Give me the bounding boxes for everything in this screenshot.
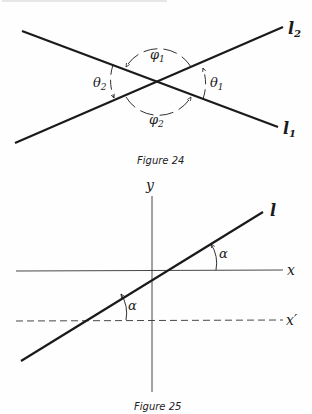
x-prime-label: x′ xyxy=(286,312,298,328)
line-l xyxy=(21,212,263,361)
x-axis xyxy=(16,270,283,271)
figures-canvas: φ1 φ2 θ1 θ2 l2 l1 Figure 24 y x x′ l α xyxy=(0,0,312,414)
label-phi2: φ2 xyxy=(149,112,164,129)
figure-25: y x x′ l α α Figure 25 xyxy=(16,177,298,412)
angle-arc-alpha-upper xyxy=(211,244,217,270)
angle-arc-theta2 xyxy=(111,65,114,98)
label-alpha-upper: α xyxy=(219,246,228,261)
figure-25-caption: Figure 25 xyxy=(134,401,181,412)
label-theta2: θ2 xyxy=(93,75,107,92)
label-l2: l2 xyxy=(288,19,301,39)
label-l1: l1 xyxy=(283,119,296,139)
label-alpha-lower: α xyxy=(128,298,137,313)
x-prime-axis xyxy=(16,320,283,321)
figure-24-caption: Figure 24 xyxy=(137,155,184,166)
label-phi1: φ1 xyxy=(150,47,165,64)
angle-arc-phi2 xyxy=(126,97,191,115)
figure-24: φ1 φ2 θ1 θ2 l2 l1 Figure 24 xyxy=(15,19,301,166)
textbook-page: φ1 φ2 θ1 θ2 l2 l1 Figure 24 y x x′ l α xyxy=(0,0,312,414)
angle-arc-theta1 xyxy=(203,68,206,99)
x-axis-label: x xyxy=(287,262,295,278)
label-theta1: θ1 xyxy=(210,75,224,92)
label-l: l xyxy=(270,201,276,220)
y-axis-label: y xyxy=(145,177,155,193)
